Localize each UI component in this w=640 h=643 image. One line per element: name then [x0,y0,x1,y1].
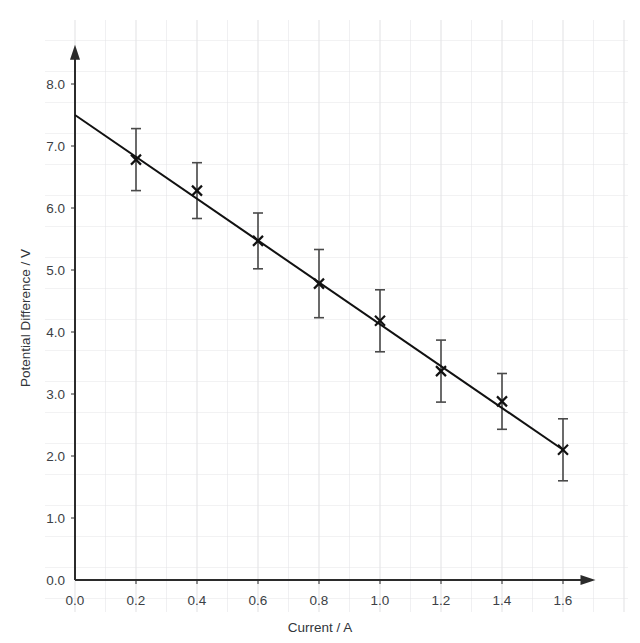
axis-lines [70,45,596,585]
y-tick-label: 1.0 [46,511,65,526]
x-tick-label: 1.0 [371,593,390,608]
potential-difference-vs-current-chart: 0.00.20.40.60.81.01.21.41.6 0.01.02.03.0… [0,0,640,643]
y-tick-label: 5.0 [46,263,65,278]
y-tick-label: 4.0 [46,325,65,340]
grid-minor-lines [45,20,628,612]
x-tick-label: 1.6 [554,593,573,608]
y-tick-label: 7.0 [46,139,65,154]
y-tick-label: 0.0 [46,573,65,588]
y-tick-label: 8.0 [46,77,65,92]
y-axis-title: Potential Difference / V [18,249,33,387]
y-tick-label: 2.0 [46,449,65,464]
x-tick-label: 0.4 [188,593,207,608]
y-tick-label: 6.0 [46,201,65,216]
x-tick-label: 0.2 [127,593,146,608]
x-tick-label: 0.0 [66,593,85,608]
x-tick-label: 0.8 [310,593,329,608]
y-axis-tick-labels: 0.01.02.03.04.05.06.07.08.0 [46,77,65,588]
x-tick-label: 1.2 [432,593,451,608]
x-axis-tick-labels: 0.00.20.40.60.81.01.21.41.6 [66,593,573,608]
chart-figure: ed the results of an experiment using a … [0,0,640,643]
y-tick-label: 3.0 [46,387,65,402]
x-tick-label: 0.6 [249,593,268,608]
x-axis-title: Current / A [288,620,353,635]
x-tick-label: 1.4 [493,593,512,608]
